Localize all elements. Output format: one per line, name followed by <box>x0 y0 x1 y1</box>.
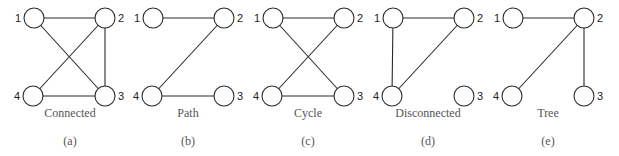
panel-letter: (a) <box>63 134 76 148</box>
edge-1-4 <box>392 18 393 96</box>
panel-caption: Disconnected <box>395 106 460 120</box>
node-label: 2 <box>237 12 243 24</box>
panel-letter: (d) <box>421 134 435 148</box>
node-2 <box>214 8 234 28</box>
edge-2-4 <box>152 18 224 96</box>
graph-types-figure: 1234 Connected (a) 1234 Path (b) 1234 Cy… <box>0 0 619 156</box>
node-label: 3 <box>357 90 363 102</box>
panel-d: 1234 Disconnected (d) <box>373 8 483 148</box>
node-2 <box>574 8 594 28</box>
panel-b: 1234 Path (b) <box>133 8 243 148</box>
node-1 <box>383 8 403 28</box>
node-label: 4 <box>373 90 379 102</box>
node-3 <box>95 86 115 106</box>
panel-letter: (c) <box>301 134 314 148</box>
panel-caption: Path <box>177 106 198 120</box>
panel-a: 1234 Connected (a) <box>14 8 124 148</box>
node-label: 2 <box>118 12 124 24</box>
edges <box>152 18 224 96</box>
node-label: 2 <box>357 12 363 24</box>
node-4 <box>262 86 282 106</box>
node-label: 3 <box>597 90 603 102</box>
edges <box>392 18 464 96</box>
node-label: 3 <box>237 90 243 102</box>
node-3 <box>214 86 234 106</box>
panel-letter: (b) <box>181 134 195 148</box>
node-1 <box>24 8 44 28</box>
node-3 <box>334 86 354 106</box>
node-label: 3 <box>118 90 124 102</box>
node-label: 1 <box>254 12 260 24</box>
node-3 <box>454 86 474 106</box>
node-4 <box>502 86 522 106</box>
node-4 <box>382 86 402 106</box>
edges <box>512 18 584 96</box>
edges <box>33 18 105 96</box>
node-label: 4 <box>14 90 20 102</box>
edge-2-4 <box>512 18 584 96</box>
node-2 <box>454 8 474 28</box>
node-label: 1 <box>374 12 380 24</box>
node-1 <box>143 8 163 28</box>
node-2 <box>95 8 115 28</box>
edge-2-4 <box>392 18 464 96</box>
node-label: 1 <box>134 12 140 24</box>
panel-caption: Tree <box>537 106 559 120</box>
node-label: 1 <box>15 12 21 24</box>
edges <box>272 18 344 96</box>
node-4 <box>142 86 162 106</box>
node-1 <box>503 8 523 28</box>
panel-c: 1234 Cycle (c) <box>253 8 363 148</box>
node-3 <box>574 86 594 106</box>
node-label: 3 <box>477 90 483 102</box>
panel-e: 1234 Tree (e) <box>493 8 603 148</box>
node-4 <box>23 86 43 106</box>
node-label: 2 <box>597 12 603 24</box>
node-label: 1 <box>494 12 500 24</box>
node-label: 4 <box>253 90 259 102</box>
panel-letter: (e) <box>541 134 554 148</box>
panel-caption: Connected <box>44 106 95 120</box>
node-label: 2 <box>477 12 483 24</box>
node-label: 4 <box>133 90 139 102</box>
node-1 <box>263 8 283 28</box>
panel-caption: Cycle <box>294 106 322 120</box>
node-label: 4 <box>493 90 499 102</box>
node-2 <box>334 8 354 28</box>
